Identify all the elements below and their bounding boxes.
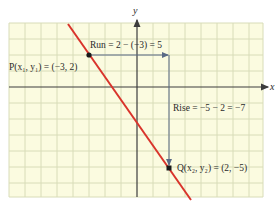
rise-label: Rise = −5 − 2 = −7 [173,103,245,113]
point-p [86,52,91,57]
x-axis-label: x [269,81,275,92]
point-q-label: Q(x₂, y₂) = (2, −5) [177,163,247,174]
run-label: Run = 2 − (−3) = 5 [90,40,162,51]
point-q [167,166,172,171]
y-axis-label: y [132,5,138,16]
coordinate-plane: x y Run = 2 − (−3) = 5 Rise = −5 − 2 = −… [0,0,279,209]
point-p-label: P(x₁, y₁) = (−3, 2) [9,62,78,73]
